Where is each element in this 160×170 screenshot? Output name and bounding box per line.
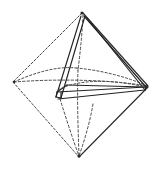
vertex-mark-right [146, 86, 148, 88]
vertex-mark-apex-top [80, 11, 83, 14]
octahedron-diagram [0, 0, 160, 170]
vertex-mark-apex-bottom [77, 154, 80, 157]
vertex-mark-left [13, 81, 15, 83]
figure-container [0, 0, 160, 170]
